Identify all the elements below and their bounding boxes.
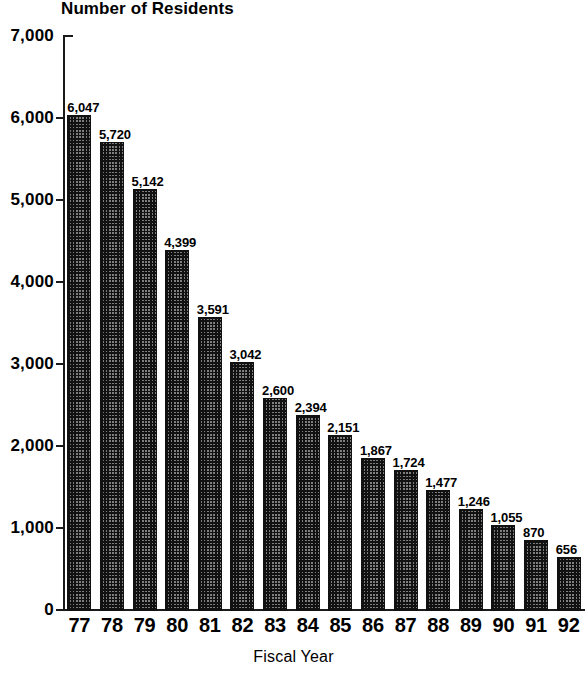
bar-value-label: 6,047 — [67, 101, 99, 114]
x-axis-tick-label: 82 — [226, 614, 259, 637]
bar-value-label: 2,394 — [295, 401, 327, 414]
y-axis-tick-label: 3,000 — [0, 354, 54, 374]
x-axis-tick-label: 89 — [455, 614, 488, 637]
x-axis-tick-label: 87 — [389, 614, 422, 637]
bar: 2,394 — [296, 415, 320, 611]
y-axis-tick-label: 1,000 — [0, 518, 54, 538]
x-axis-title: Fiscal Year — [0, 648, 587, 666]
y-axis-tick-label: 0 — [0, 600, 54, 620]
bar-chart: Number of Residents 01,0002,0003,0004,00… — [0, 0, 587, 678]
bar: 1,724 — [394, 470, 418, 611]
bar-value-label: 3,591 — [197, 303, 229, 316]
x-axis-tick-labels: 77787980818283848586878889909192 — [63, 614, 585, 644]
bar: 1,246 — [459, 509, 483, 611]
bar-value-label: 2,151 — [327, 421, 359, 434]
x-axis-tick-label: 77 — [63, 614, 96, 637]
bars-container: 6,0475,7205,1424,3993,5913,0422,6002,394… — [63, 36, 585, 611]
x-axis-tick-label: 91 — [520, 614, 553, 637]
x-axis-tick-label: 84 — [291, 614, 324, 637]
y-axis-tick-label: 4,000 — [0, 272, 54, 292]
y-axis-tick-label: 7,000 — [0, 26, 54, 46]
bar: 2,600 — [263, 398, 287, 611]
bar: 656 — [557, 557, 581, 611]
bar-value-label: 5,142 — [132, 175, 164, 188]
bar-value-label: 1,246 — [458, 495, 490, 508]
x-axis-tick-label: 86 — [357, 614, 390, 637]
chart-title: Number of Residents — [61, 0, 234, 19]
bar-value-label: 2,600 — [262, 384, 294, 397]
bar: 2,151 — [328, 435, 352, 611]
x-axis-tick-label: 79 — [128, 614, 161, 637]
x-axis-tick-label: 92 — [552, 614, 585, 637]
bar-value-label: 3,042 — [229, 348, 261, 361]
y-axis-tick-labels: 01,0002,0003,0004,0005,0006,0007,000 — [0, 0, 54, 678]
x-axis-tick-label: 80 — [161, 614, 194, 637]
bar: 3,591 — [198, 317, 222, 611]
x-axis-tick-label: 83 — [259, 614, 292, 637]
bar: 3,042 — [230, 362, 254, 611]
bar: 1,055 — [491, 525, 515, 612]
bar: 5,720 — [100, 142, 124, 611]
y-axis-tick-label: 5,000 — [0, 190, 54, 210]
bar-value-label: 5,720 — [99, 128, 131, 141]
bar: 6,047 — [67, 115, 91, 611]
bar-value-label: 4,399 — [164, 236, 196, 249]
bar: 1,867 — [361, 458, 385, 611]
bar-value-label: 1,867 — [360, 444, 392, 457]
x-axis-tick-label: 81 — [194, 614, 227, 637]
bar: 5,142 — [133, 189, 157, 611]
bar-value-label: 656 — [556, 543, 577, 556]
y-axis-tick-label: 6,000 — [0, 108, 54, 128]
y-axis-tick-label: 2,000 — [0, 436, 54, 456]
x-axis-tick-label: 85 — [324, 614, 357, 637]
bar-value-label: 870 — [523, 526, 544, 539]
x-axis-tick-label: 90 — [487, 614, 520, 637]
x-axis-tick-label: 88 — [422, 614, 455, 637]
bar: 870 — [524, 540, 548, 611]
x-axis-tick-label: 78 — [96, 614, 129, 637]
bar-value-label: 1,724 — [393, 456, 425, 469]
bar: 4,399 — [165, 250, 189, 611]
bar-value-label: 1,477 — [425, 476, 457, 489]
bar-value-label: 1,055 — [490, 511, 522, 524]
bar: 1,477 — [426, 490, 450, 611]
